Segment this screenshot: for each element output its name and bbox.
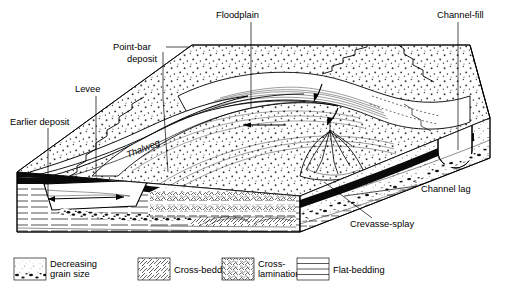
label-levee-text: Levee — [75, 84, 100, 94]
legend-item-cross-lamination: Cross- lamination — [222, 258, 300, 280]
label-channel-lag-text: Channel lag — [421, 184, 471, 194]
label-floodplain: Floodplain — [216, 10, 259, 20]
label-channel-fill-text: Channel-fill — [437, 10, 484, 20]
legend-label-decreasing-grain-size-line2: grain size — [50, 269, 90, 279]
legend-swatch-flat-bedding — [297, 258, 329, 280]
legend-label-decreasing-grain-size-line1: Decreasing — [50, 259, 97, 269]
label-crevasse-splay: Crevasse-splay — [350, 219, 414, 229]
legend-swatch-cross-lamination — [222, 258, 254, 280]
legend-item-decreasing-grain-size: Decreasing grain size — [14, 258, 97, 280]
legend-swatch-decreasing-grain-size — [14, 258, 46, 280]
label-earlier-deposit-text: Earlier deposit — [10, 117, 70, 127]
label-earlier-deposit: Earlier deposit — [10, 117, 70, 127]
label-floodplain-text: Floodplain — [216, 10, 259, 20]
legend-label-cross-lamination-line1: Cross- — [258, 259, 285, 269]
legend: Decreasing grain size Cross-bedding Cros… — [14, 258, 385, 280]
thalweg-lens — [44, 180, 148, 210]
label-crevasse-splay-text: Crevasse-splay — [350, 219, 414, 229]
label-levee: Levee — [75, 84, 100, 94]
legend-swatch-cross-bedding — [138, 258, 170, 280]
legend-item-cross-bedding: Cross-bedding — [138, 258, 234, 280]
label-channel-lag: Channel lag — [421, 184, 471, 194]
label-point-bar-line1: Point-bar — [113, 42, 151, 52]
geological-block-diagram: Earlier deposit Levee Point-bar deposit … — [0, 0, 507, 299]
legend-item-flat-bedding: Flat-bedding — [297, 258, 385, 280]
legend-label-flat-bedding: Flat-bedding — [333, 265, 385, 275]
legend-label-cross-lamination-line2: lamination — [258, 269, 300, 279]
diagram-svg: Earlier deposit Levee Point-bar deposit … — [0, 0, 507, 299]
label-point-bar-line2: deposit — [127, 54, 157, 64]
label-channel-fill: Channel-fill — [437, 10, 484, 20]
